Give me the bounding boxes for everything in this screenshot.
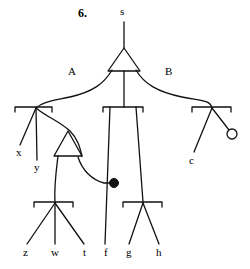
leaf-label-x: x	[16, 147, 22, 158]
figure-number: 6.	[78, 7, 87, 19]
leaf-label-w: w	[51, 247, 59, 258]
edge-left-to-y	[36, 108, 37, 160]
top-triangle	[108, 48, 140, 71]
leaf-label-c: c	[189, 155, 194, 166]
edge-left-to-lower-triangle	[36, 108, 82, 156]
bracket-left	[15, 107, 52, 112]
edge-bottom-left-to-z	[27, 203, 55, 244]
branch-b-curve	[136, 70, 212, 108]
bracket-center	[103, 107, 143, 112]
open-circle-marker	[227, 129, 237, 139]
edge-right-to-circle	[212, 108, 229, 130]
edge-left-to-x	[20, 108, 36, 145]
edge-bottom-right-to-g	[129, 203, 143, 244]
filled-dot-marker	[110, 179, 119, 188]
leaf-label-g: g	[126, 247, 132, 258]
edge-right-to-c	[194, 108, 212, 152]
syntax-tree-diagram: 6. s A B x y c z w t f g h	[0, 0, 250, 269]
leaf-label-f: f	[104, 247, 108, 258]
edge-lower-triangle-to-bottom-left	[55, 156, 58, 202]
leaf-label-t: t	[83, 247, 86, 258]
edge-center-to-bottom-right	[136, 107, 143, 202]
tree-graphics	[0, 0, 250, 269]
leaf-label-y: y	[34, 162, 40, 173]
node-label-s: s	[120, 6, 124, 17]
leaf-label-h: h	[156, 247, 162, 258]
edge-bottom-left-to-t	[55, 203, 84, 244]
edge-bottom-right-to-h	[143, 203, 159, 244]
leaf-label-z: z	[23, 247, 28, 258]
branch-label-b: B	[165, 66, 172, 77]
branch-label-a: A	[68, 66, 76, 77]
edge-center-to-f	[105, 107, 110, 244]
